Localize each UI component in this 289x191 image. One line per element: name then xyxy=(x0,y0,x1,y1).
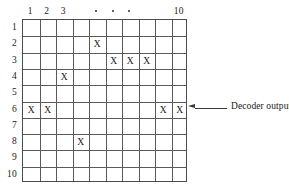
column-header-dot-6 xyxy=(105,3,122,19)
row-header-3: 3 xyxy=(0,52,19,68)
grid-mark-r6-c2: X xyxy=(40,102,56,118)
row-header-6: 6 xyxy=(0,101,19,117)
grid-mark-r4-c3: X xyxy=(56,69,72,85)
grid-mark-r3-c8: X xyxy=(139,53,155,69)
row-header-8: 8 xyxy=(0,133,19,149)
row-header-4: 4 xyxy=(0,68,19,84)
grid-marks: XXXXXXXXXX xyxy=(23,20,186,181)
row-header-7: 7 xyxy=(0,117,19,133)
grid-mark-r3-c6: X xyxy=(106,53,122,69)
row-header-strip: 12345678910 xyxy=(0,19,20,182)
column-header-10: 10 xyxy=(171,3,188,19)
figure-root: 12310 12345678910 XXXXXXXXXX Decoder out… xyxy=(0,0,289,191)
row-header-10: 10 xyxy=(0,166,19,182)
grid-mark-r8-c4: X xyxy=(73,134,89,150)
grid-mark-r6-c9: X xyxy=(155,102,171,118)
decoder-output-annotation: Decoder output xyxy=(186,99,289,119)
dot-icon xyxy=(112,10,114,12)
annotation-leader-line xyxy=(195,108,227,109)
grid-mark-r3-c7: X xyxy=(122,53,138,69)
column-header-3: 3 xyxy=(55,3,72,19)
grid-mark-r6-c1: X xyxy=(23,102,39,118)
row-header-5: 5 xyxy=(0,84,19,100)
column-header-strip: 12310 xyxy=(22,3,187,19)
column-header-2: 2 xyxy=(39,3,56,19)
decoder-grid: XXXXXXXXXX xyxy=(22,19,187,182)
row-header-1: 1 xyxy=(0,19,19,35)
row-header-2: 2 xyxy=(0,35,19,51)
row-header-9: 9 xyxy=(0,149,19,165)
dot-icon xyxy=(128,10,130,12)
annotation-label: Decoder output xyxy=(231,101,289,111)
column-header-dot-7 xyxy=(121,3,138,19)
arrow-left-icon xyxy=(188,104,195,108)
dot-icon xyxy=(95,10,97,12)
grid-mark-r2-c5: X xyxy=(89,36,105,52)
column-header-1: 1 xyxy=(22,3,39,19)
column-header-dot-5 xyxy=(88,3,105,19)
